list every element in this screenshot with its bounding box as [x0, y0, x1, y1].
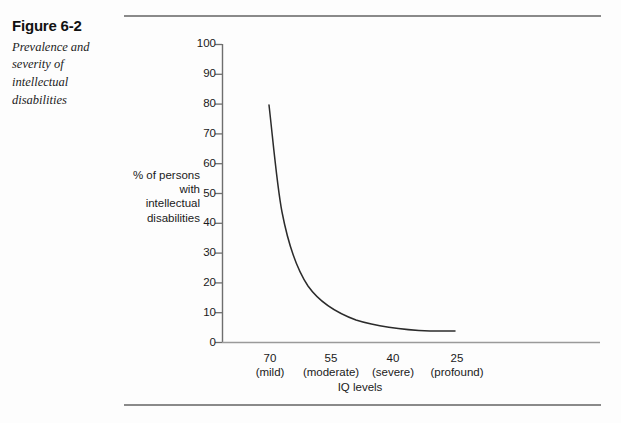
y-axis-title: % of persons with intellectual disabilit… [112, 168, 200, 225]
x-tick-group-profound: 25 (profound) [409, 351, 505, 379]
y-tick-label-0: 0 [182, 337, 216, 349]
y-tick-label-100: 100 [182, 38, 216, 50]
y-tick-label-20: 20 [182, 277, 216, 289]
prevalence-curve [269, 105, 455, 331]
figure-container: Figure 6-2 Prevalence and severity of in… [0, 0, 621, 423]
y-tick-label-80: 80 [182, 98, 216, 110]
y-tick-label-90: 90 [182, 68, 216, 80]
y-tick-label-30: 30 [182, 247, 216, 259]
y-axis-title-line-4: disabilities [112, 211, 200, 225]
x-axis-title: IQ levels [290, 381, 430, 393]
y-axis-title-line-3: intellectual [112, 196, 200, 210]
y-tick-label-10: 10 [182, 307, 216, 319]
y-axis-title-line-1: % of persons [112, 168, 200, 182]
y-axis-ticks [215, 45, 222, 343]
x-tick-label-25: 25 [409, 351, 505, 365]
x-tick-sublabel-profound: (profound) [409, 365, 505, 379]
chart-plot-area: 100 90 80 70 60 50 40 30 20 10 0 % of pe… [0, 0, 621, 423]
y-tick-label-70: 70 [182, 128, 216, 140]
y-axis-title-line-2: with [112, 182, 200, 196]
